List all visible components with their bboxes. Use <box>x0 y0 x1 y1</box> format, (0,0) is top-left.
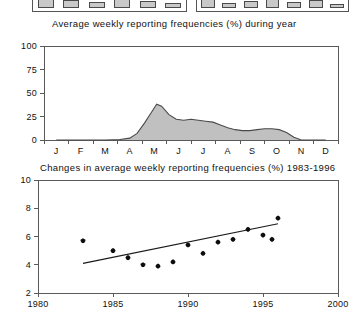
trend-chart-title: Changes in average weekly reporting freq… <box>40 162 335 173</box>
cropped-bar-panel-left <box>32 0 187 12</box>
mini-bar <box>222 3 236 8</box>
trend-data-point <box>230 237 235 242</box>
seasonal-x-tick-label: M <box>101 146 109 156</box>
mini-bar <box>309 0 323 8</box>
seasonal-y-tick-label: 50 <box>26 88 37 98</box>
trend-data-point <box>200 251 205 256</box>
seasonal-x-tick-label: N <box>298 146 305 156</box>
seasonal-x-tick-label: J <box>54 146 59 156</box>
seasonal-x-tick-label: F <box>78 146 84 156</box>
mini-bar <box>330 4 344 8</box>
figure-page: Average weekly reporting frequencies (%)… <box>0 0 356 319</box>
mini-bar <box>165 3 181 8</box>
mini-bar <box>266 0 280 8</box>
trend-data-point <box>245 227 250 232</box>
seasonal-y-tick-label: 100 <box>21 41 37 51</box>
trend-y-tick-label: 8 <box>26 203 31 213</box>
mini-bar-group-left <box>33 0 186 8</box>
seasonal-chart: Average weekly reporting frequencies (%)… <box>0 18 356 168</box>
trend-chart-canvas: 24681019801985199019952000 <box>0 160 356 319</box>
seasonal-chart-title: Average weekly reporting frequencies (%)… <box>52 18 297 29</box>
trend-data-point <box>155 264 160 269</box>
mini-bar <box>114 0 130 8</box>
trend-data-point <box>170 259 175 264</box>
mini-bar <box>140 1 156 8</box>
trend-data-point <box>269 237 274 242</box>
seasonal-x-tick-label: D <box>322 146 329 156</box>
trend-x-tick-label: 1990 <box>177 299 198 309</box>
trend-data-point <box>275 216 280 221</box>
trend-data-point <box>215 240 220 245</box>
seasonal-x-tick-label: M <box>150 146 158 156</box>
mini-bar <box>89 2 105 8</box>
trend-data-point <box>140 262 145 267</box>
seasonal-x-tick-label: J <box>176 146 181 156</box>
trend-data-point <box>80 238 85 243</box>
cropped-bar-panel-right <box>196 0 349 12</box>
trend-y-tick-label: 10 <box>20 175 31 185</box>
trend-data-point <box>110 248 115 253</box>
seasonal-y-tick-label: 0 <box>32 135 37 145</box>
trend-data-point <box>185 242 190 247</box>
trend-x-tick-label: 1980 <box>27 299 48 309</box>
mini-bar-group-right <box>197 0 348 8</box>
seasonal-x-tick-label: O <box>273 146 280 156</box>
trend-chart: Changes in average weekly reporting freq… <box>0 160 356 319</box>
mini-bar <box>63 0 79 8</box>
trend-x-tick-label: 1985 <box>102 299 123 309</box>
trend-plot-frame <box>38 180 338 293</box>
mini-bar <box>38 0 54 8</box>
trend-data-point <box>260 232 265 237</box>
trend-data-point <box>125 255 130 260</box>
cropped-panels-strip <box>0 0 356 14</box>
trend-y-tick-label: 4 <box>26 260 31 270</box>
seasonal-y-tick-label: 75 <box>26 65 37 75</box>
mini-bar <box>244 1 258 8</box>
seasonal-x-tick-label: J <box>201 146 206 156</box>
trend-y-tick-label: 6 <box>26 232 31 242</box>
mini-bar <box>287 2 301 8</box>
trend-y-tick-label: 2 <box>26 288 31 298</box>
seasonal-x-tick-label: S <box>249 146 255 156</box>
trend-x-tick-label: 1995 <box>252 299 273 309</box>
mini-bar <box>201 0 215 8</box>
seasonal-y-tick-label: 25 <box>26 112 37 122</box>
trend-x-tick-label: 2000 <box>327 299 348 309</box>
seasonal-x-tick-label: A <box>127 146 133 156</box>
seasonal-chart-canvas: 0255075100JFMAMJJASOND <box>0 18 356 168</box>
seasonal-x-tick-label: A <box>225 146 231 156</box>
seasonal-area-fill <box>56 104 326 140</box>
